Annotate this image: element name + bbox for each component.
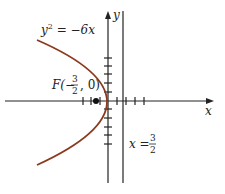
- svg-text:2: 2: [150, 145, 156, 155]
- svg-text:x =: x =: [129, 137, 150, 151]
- directrix-label: x = 3 2: [129, 133, 156, 155]
- x-axis-label: x: [205, 104, 212, 118]
- svg-text:3: 3: [150, 133, 156, 143]
- svg-text:, 0): , 0): [80, 78, 100, 92]
- y-axis-label: y: [112, 8, 120, 22]
- focus-point: [93, 98, 99, 104]
- svg-text:3: 3: [72, 74, 78, 84]
- focus-label: F(− 3 2 , 0): [51, 74, 100, 96]
- y-axis-arrow-icon: [105, 11, 111, 19]
- equation-label: y2 = −6x: [40, 22, 95, 37]
- svg-text:2: 2: [72, 86, 78, 96]
- parabola-diagram: y2 = −6x F(− 3 2 , 0) x = 3 2 x y: [0, 0, 225, 194]
